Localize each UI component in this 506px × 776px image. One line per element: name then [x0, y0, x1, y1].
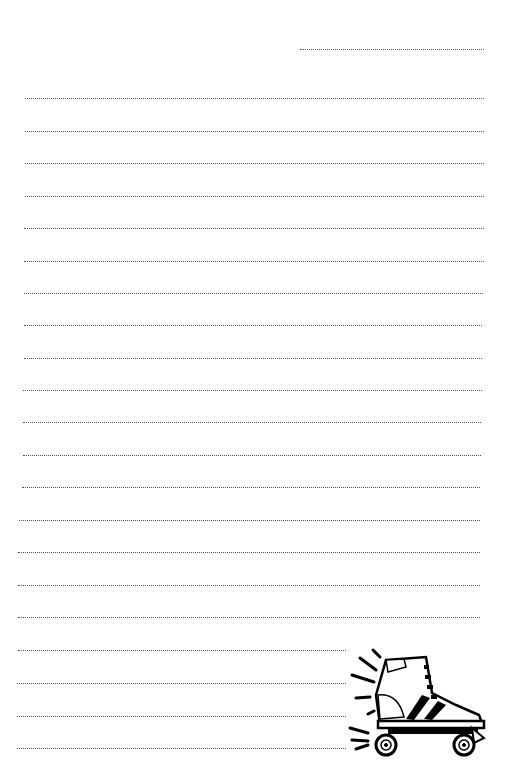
ruled-line [18, 552, 480, 553]
ruled-line [24, 293, 483, 294]
ruled-line [25, 163, 484, 164]
ruled-line [23, 422, 481, 423]
ruled-line [23, 455, 481, 456]
ruled-line [25, 98, 484, 99]
ruled-line [25, 131, 484, 132]
ruled-line [24, 228, 484, 229]
ruled-line [22, 487, 480, 488]
ruled-line [18, 585, 480, 586]
ruled-line [25, 196, 484, 197]
ruled-line [24, 358, 482, 359]
ruled-line [19, 520, 480, 521]
ruled-line [23, 390, 482, 391]
ruled-line [18, 617, 480, 618]
ruled-line [24, 261, 484, 262]
roller-skate-icon [346, 645, 486, 757]
ruled-line [24, 325, 482, 326]
header-date-line [300, 49, 484, 50]
